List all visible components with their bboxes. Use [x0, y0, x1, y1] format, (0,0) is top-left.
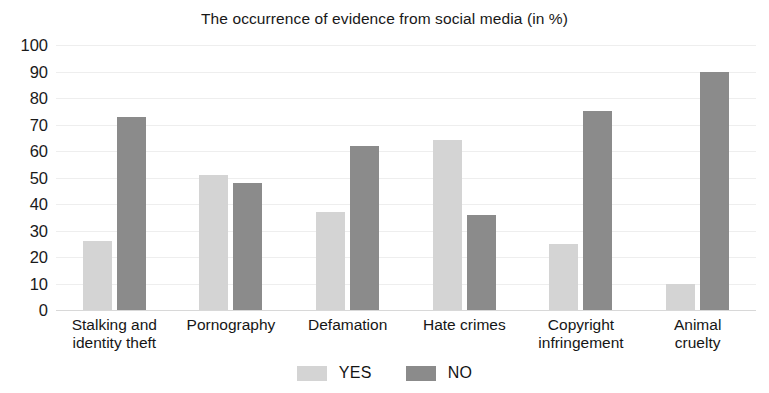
bar-group [56, 45, 173, 310]
x-axis-tick-line: Animal [674, 316, 721, 333]
bar-yes [549, 244, 578, 310]
x-axis-tick-line: Copyright [548, 316, 614, 333]
y-axis-tick-label: 10 [0, 275, 48, 292]
bar-yes [83, 241, 112, 310]
bar-yes [666, 284, 695, 311]
x-axis-tick-line: Hate crimes [423, 316, 506, 333]
y-axis-tick-label: 70 [0, 116, 48, 133]
bar-no [350, 146, 379, 310]
x-axis-tick-line: infringement [523, 334, 640, 352]
x-axis: Stalking andidentity theftPornographyDef… [56, 316, 756, 360]
bar-no [233, 183, 262, 310]
legend-swatch-icon [406, 366, 436, 381]
x-axis-tick-label: Defamation [289, 316, 406, 334]
gridline [56, 310, 756, 311]
bar-yes [433, 140, 462, 310]
bar-yes [199, 175, 228, 310]
y-axis-tick-label: 30 [0, 222, 48, 239]
bar-group [173, 45, 290, 310]
y-axis-tick-label: 90 [0, 63, 48, 80]
x-axis-tick-line: cruelty [639, 334, 756, 352]
legend-swatch-icon [297, 366, 327, 381]
x-axis-tick-label: Stalking andidentity theft [56, 316, 173, 352]
bar-no [117, 117, 146, 310]
legend-label: YES [339, 364, 372, 382]
x-axis-tick-label: Pornography [173, 316, 290, 334]
x-axis-tick-label: Animalcruelty [639, 316, 756, 352]
x-axis-tick-line: Stalking and [72, 316, 157, 333]
bar-yes [316, 212, 345, 310]
y-axis-tick-label: 100 [0, 37, 48, 54]
bar-group [406, 45, 523, 310]
bar-no [700, 72, 729, 311]
y-axis-tick-label: 50 [0, 169, 48, 186]
bar-chart: The occurrence of evidence from social m… [0, 0, 769, 393]
y-axis-tick-label: 20 [0, 249, 48, 266]
chart-legend: YESNO [0, 364, 769, 382]
x-axis-tick-line: Pornography [187, 316, 276, 333]
bar-no [467, 215, 496, 310]
x-axis-tick-line: Defamation [308, 316, 387, 333]
x-axis-tick-label: Copyrightinfringement [523, 316, 640, 352]
y-axis-tick-label: 0 [0, 302, 48, 319]
x-axis-tick-label: Hate crimes [406, 316, 523, 334]
legend-item[interactable]: YES [297, 364, 372, 382]
y-axis-tick-label: 80 [0, 90, 48, 107]
bar-group [289, 45, 406, 310]
chart-title: The occurrence of evidence from social m… [0, 10, 769, 28]
plot-area [56, 45, 756, 310]
legend-label: NO [448, 364, 473, 382]
legend-item[interactable]: NO [406, 364, 473, 382]
x-axis-tick-line: identity theft [56, 334, 173, 352]
y-axis-tick-label: 60 [0, 143, 48, 160]
y-axis: 0102030405060708090100 [0, 45, 48, 310]
bar-group [639, 45, 756, 310]
bar-group [523, 45, 640, 310]
y-axis-tick-label: 40 [0, 196, 48, 213]
bar-no [583, 111, 612, 310]
